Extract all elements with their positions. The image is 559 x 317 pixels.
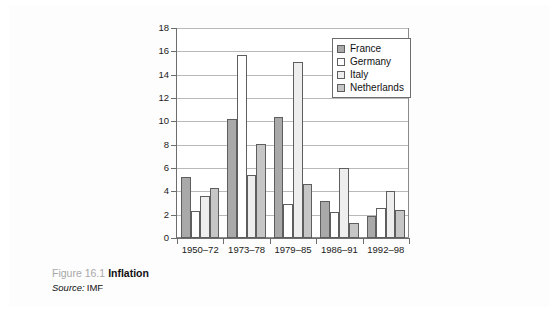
legend-swatch-icon [337,45,345,53]
x-axis-tick [363,239,364,244]
bar-italy-2 [293,62,303,238]
figure-caption: Figure 16.1Inflation Source:IMF [52,267,382,294]
bar-germany-2 [283,204,293,238]
legend-item-germany[interactable]: Germany [337,55,404,68]
y-axis-labels: 024681012141618 [129,28,169,239]
y-axis-tick-label: 6 [131,163,169,173]
bar-netherlands-2 [303,184,313,238]
bar-france-2 [274,117,284,238]
source-value: IMF [87,282,103,293]
bar-france-0 [181,177,191,238]
x-axis-tick-label: 1979–85 [270,245,316,255]
y-axis-tick-label: 10 [131,116,169,126]
bar-netherlands-3 [349,223,359,238]
bar-france-1 [227,119,237,238]
chart-legend: FranceGermanyItalyNetherlands [332,38,411,98]
bar-italy-3 [339,168,349,238]
y-axis-tick-label: 12 [131,93,169,103]
x-axis-tick [409,239,410,244]
legend-swatch-icon [337,84,345,92]
x-axis-tick [177,239,178,244]
y-axis-tick-label: 0 [131,233,169,243]
bar-germany-4 [376,208,386,238]
page-title: Inflation [108,267,149,279]
source-label: Source: [52,282,85,293]
y-axis-tick-label: 14 [131,70,169,80]
x-axis-tick-label: 1986–91 [316,245,362,255]
bar-italy-1 [247,175,257,238]
bar-chart: 024681012141618 1950–721973–781979–85198… [129,23,429,259]
caption-source-line: Source:IMF [52,282,382,294]
y-axis-tick-label: 16 [131,46,169,56]
legend-swatch-icon [337,58,345,66]
caption-title-line: Figure 16.1Inflation [52,267,382,280]
bar-italy-4 [386,191,396,238]
legend-item-italy[interactable]: Italy [337,68,404,81]
bar-netherlands-1 [256,144,266,239]
bar-germany-0 [191,211,201,238]
y-axis-tick-label: 2 [131,210,169,220]
x-axis-line [176,238,410,239]
legend-label: France [350,44,381,54]
figure-number: Figure 16.1 [52,267,105,279]
x-axis-tick-label: 1950–72 [177,245,223,255]
x-axis-tick [270,239,271,244]
bar-netherlands-4 [395,210,405,238]
bar-germany-1 [237,55,247,238]
legend-label: Netherlands [350,83,404,93]
legend-swatch-icon [337,71,345,79]
x-axis-tick [316,239,317,244]
legend-label: Italy [350,70,368,80]
bar-netherlands-0 [210,188,220,238]
legend-item-netherlands[interactable]: Netherlands [337,81,404,94]
bar-germany-3 [330,212,340,238]
bar-france-4 [367,216,377,238]
bar-france-3 [320,201,330,238]
bar-italy-0 [200,196,210,238]
y-axis-tick-label: 8 [131,140,169,150]
y-axis-tick-label: 18 [131,23,169,33]
legend-label: Germany [350,57,391,67]
figure-card: 024681012141618 1950–721973–781979–85198… [9,5,550,307]
x-axis-tick-label: 1973–78 [223,245,269,255]
x-axis-tick-label: 1992–98 [363,245,409,255]
legend-item-france[interactable]: France [337,42,404,55]
y-axis-tick-label: 4 [131,186,169,196]
x-axis-tick [223,239,224,244]
